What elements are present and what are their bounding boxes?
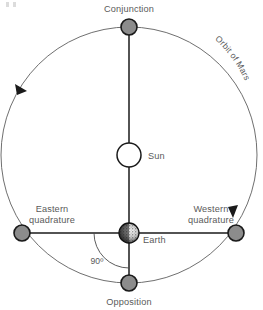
label-western-quadrature-line2: quadrature xyxy=(188,215,234,225)
corner-registration-marks xyxy=(6,2,16,7)
label-eastern-quadrature-line1: Eastern xyxy=(36,204,69,214)
label-angle-90: 90º xyxy=(90,256,104,266)
mars-marker-conjunction xyxy=(121,19,137,35)
label-earth: Earth xyxy=(143,235,166,245)
mars-marker-opposition xyxy=(121,275,137,291)
sun-body xyxy=(117,143,141,167)
label-opposition: Opposition xyxy=(106,297,151,307)
label-western-quadrature-line1: Western xyxy=(193,204,228,214)
mars-marker-eastern-quadrature xyxy=(14,225,30,241)
label-sun: Sun xyxy=(148,151,165,161)
mars-orbit-diagram: Conjunction Opposition Eastern quadratur… xyxy=(0,0,263,310)
label-orbit-of-mars-text: Orbit of Mars xyxy=(213,34,252,82)
label-conjunction: Conjunction xyxy=(104,4,154,14)
earth-body xyxy=(119,223,139,243)
label-eastern-quadrature-line2: quadrature xyxy=(29,215,75,225)
label-orbit-of-mars: Orbit of Mars xyxy=(213,34,252,82)
mars-marker-western-quadrature xyxy=(228,225,244,241)
